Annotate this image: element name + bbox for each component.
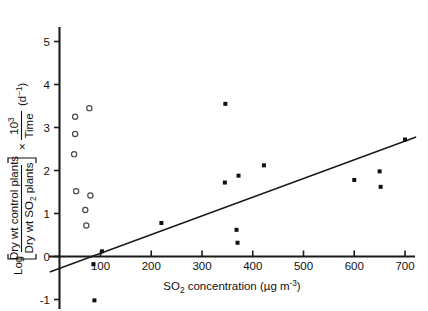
data-point-filled [100, 249, 104, 253]
data-point-filled [92, 298, 96, 302]
data-point-filled [236, 241, 240, 245]
x-axis-title: SO2 concentration (µg m-3) [163, 279, 301, 295]
y-axis-times-symbol: × [16, 143, 28, 150]
data-point-filled [262, 163, 266, 167]
y-tick-label: -1 [40, 294, 50, 306]
data-point-open [72, 152, 77, 157]
regression-trendline [50, 137, 416, 272]
x-tick-label: 500 [294, 260, 313, 272]
open-circle-series [72, 106, 93, 229]
data-point-filled [159, 221, 163, 225]
data-point-filled [91, 262, 95, 266]
x-tick-label: 200 [142, 260, 161, 272]
data-point-filled [237, 174, 241, 178]
data-point-filled [379, 185, 383, 189]
data-point-open [88, 193, 93, 198]
data-point-open [73, 114, 78, 119]
y-axis-ticks: -1012345 [40, 36, 60, 306]
y-tick-label: 5 [44, 36, 50, 48]
y-axis-denominator: Dry wt SO2 plants [23, 162, 38, 253]
x-tick-label: 600 [345, 260, 364, 272]
data-point-filled [223, 181, 227, 185]
x-tick-label: 400 [243, 260, 262, 272]
data-point-filled [235, 228, 239, 232]
data-point-open [84, 223, 89, 228]
y-axis-units: (d−1) [15, 82, 28, 106]
figure-container: -1012345 100200300400500600700 SO2 conce… [0, 0, 428, 311]
y-tick-label: 1 [44, 208, 50, 220]
x-tick-label: 300 [192, 260, 211, 272]
y-tick-label: 4 [44, 79, 51, 91]
y-tick-label: 3 [44, 122, 50, 134]
data-point-open [74, 189, 79, 194]
x-tick-label: 700 [395, 260, 414, 272]
data-point-filled [403, 138, 407, 142]
y-axis-title: Log Dry wt control plants Dry wt SO2 pla… [7, 82, 38, 275]
data-point-filled [352, 178, 356, 182]
data-point-open [83, 207, 88, 212]
y-axis-frac-bottom: Time [23, 113, 35, 138]
filled-point-series [91, 102, 407, 303]
data-point-open [73, 131, 78, 136]
data-point-filled [223, 102, 227, 106]
data-point-open [87, 106, 92, 111]
scatter-plot: -1012345 100200300400500600700 SO2 conce… [0, 0, 428, 311]
y-axis-frac-top: 103 [7, 117, 20, 135]
data-point-filled [378, 169, 382, 173]
y-axis-numerator: Dry wt control plants [8, 156, 20, 260]
y-tick-label: 2 [44, 165, 50, 177]
x-axis-ticks: 100200300400500600700 [91, 251, 415, 273]
y-tick-label: 0 [44, 251, 50, 263]
